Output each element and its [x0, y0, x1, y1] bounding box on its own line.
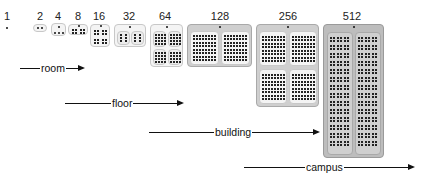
node-icon — [333, 77, 335, 79]
node-icon — [361, 109, 363, 111]
node-icon — [344, 53, 346, 55]
node-icon — [295, 50, 297, 52]
node-icon — [265, 95, 267, 97]
node-icon — [295, 39, 297, 41]
node-icon — [340, 96, 342, 98]
node-icon — [340, 61, 342, 63]
node-icon — [358, 64, 360, 66]
node-icon — [358, 144, 360, 146]
node-icon — [202, 42, 204, 44]
group-16 — [90, 24, 110, 47]
node-icon — [170, 61, 172, 63]
node-icon — [333, 136, 335, 138]
node-icon — [337, 56, 339, 58]
node-icon — [365, 133, 367, 135]
node-icon — [227, 42, 229, 44]
node-icon — [295, 88, 297, 90]
scale-building: building — [149, 126, 321, 138]
node-icon — [179, 58, 181, 60]
node-icon — [372, 120, 374, 122]
node-icon — [361, 45, 363, 47]
node-icon — [164, 52, 166, 54]
node-icon — [330, 80, 332, 82]
node-icon — [193, 59, 195, 61]
node-icon — [365, 64, 367, 66]
node-icon — [170, 58, 172, 60]
node-icon — [372, 109, 374, 111]
node-icon — [375, 53, 377, 55]
node-icon — [236, 42, 238, 44]
node-icon — [265, 46, 267, 48]
node-icon — [196, 49, 198, 51]
node-icon — [268, 77, 270, 79]
node-icon — [301, 81, 303, 83]
node-icon — [365, 141, 367, 143]
node-icon — [242, 49, 244, 51]
node-icon — [170, 34, 172, 36]
node-icon — [164, 43, 166, 45]
node-icon — [337, 88, 339, 90]
node-icon — [333, 37, 335, 39]
node-icon — [344, 88, 346, 90]
node-icon — [236, 45, 238, 47]
node-icon — [304, 95, 306, 97]
node-icon — [214, 59, 216, 61]
node-icon — [239, 59, 241, 61]
node-icon — [161, 55, 163, 57]
node-icon — [344, 85, 346, 87]
node-icon — [173, 58, 175, 60]
node-icon — [337, 85, 339, 87]
node-icon — [313, 95, 315, 97]
node-icon — [274, 36, 276, 38]
node-icon — [358, 133, 360, 135]
node-icon — [375, 40, 377, 42]
node-icon — [344, 69, 346, 71]
node-icon — [313, 81, 315, 83]
node-icon — [344, 77, 346, 79]
node-icon — [277, 53, 279, 55]
node-icon — [170, 52, 172, 54]
node-icon — [262, 60, 264, 62]
node-icon — [295, 77, 297, 79]
node-icon — [301, 95, 303, 97]
node-icon — [158, 61, 160, 63]
node-icon — [361, 56, 363, 58]
node-icon — [340, 112, 342, 114]
node-icon — [274, 43, 276, 45]
group-512 — [323, 24, 384, 158]
node-icon — [375, 37, 377, 39]
node-icon — [358, 56, 360, 58]
node-icon — [277, 95, 279, 97]
node-icon — [274, 98, 276, 100]
node-icon — [337, 37, 339, 39]
node-icon — [337, 101, 339, 103]
node-icon — [310, 57, 312, 59]
node-icon — [310, 53, 312, 55]
node-icon — [271, 88, 273, 90]
node-icon — [280, 50, 282, 52]
node-icon — [158, 55, 160, 57]
node-icon — [202, 38, 204, 40]
node-icon — [158, 37, 160, 39]
node-icon — [304, 39, 306, 41]
node-icon — [196, 42, 198, 44]
node-icon — [274, 84, 276, 86]
node-icon — [372, 141, 374, 143]
node-icon — [304, 50, 306, 52]
node-icon — [301, 36, 303, 38]
node-icon — [211, 35, 213, 37]
node-icon — [245, 42, 247, 44]
node-icon — [262, 88, 264, 90]
scale-campus: campus — [244, 161, 416, 173]
node-icon — [347, 80, 349, 82]
node-icon — [224, 42, 226, 44]
node-icon — [265, 91, 267, 93]
node-icon — [313, 53, 315, 55]
node-icon — [365, 48, 367, 50]
node-icon — [333, 104, 335, 106]
node-icon — [310, 43, 312, 45]
node-icon — [265, 98, 267, 100]
node-icon — [283, 43, 285, 45]
node-icon — [330, 112, 332, 114]
node-icon — [271, 53, 273, 55]
